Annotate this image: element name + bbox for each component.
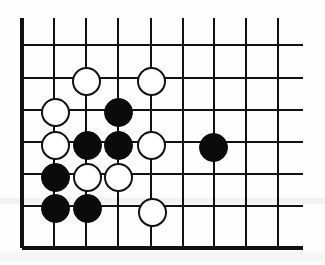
board-stones — [0, 0, 325, 265]
black-stone-c1r5[interactable] — [41, 163, 70, 192]
white-stone-c1r3[interactable] — [41, 98, 70, 127]
white-stone-c2r2[interactable] — [72, 67, 101, 96]
white-stone-c5r6[interactable] — [138, 198, 167, 227]
black-stone-c1r6[interactable] — [41, 194, 70, 223]
black-stone-c7r4[interactable] — [199, 133, 228, 162]
white-stone-c5r4[interactable] — [137, 131, 166, 160]
black-stone-c2r6[interactable] — [73, 194, 102, 223]
white-stone-c2r5[interactable] — [73, 163, 102, 192]
white-stone-c5r2[interactable] — [137, 67, 166, 96]
black-stone-c3r4[interactable] — [104, 131, 133, 160]
white-stone-c3r5[interactable] — [104, 163, 133, 192]
white-stone-c1r4[interactable] — [41, 131, 70, 160]
black-stone-c2r4[interactable] — [73, 131, 102, 160]
black-stone-c3r3[interactable] — [104, 98, 133, 127]
go-board-figure — [0, 0, 325, 265]
